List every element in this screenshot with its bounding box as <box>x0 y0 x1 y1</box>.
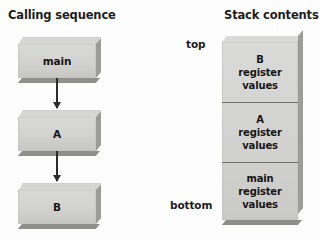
stack-frame-main-line1: main <box>246 172 273 185</box>
call-box-b-label: B <box>18 190 96 224</box>
stack-frame-b: B register values <box>222 42 298 102</box>
call-box-a-bottom-face <box>18 151 100 156</box>
stack-column: B register values A register values main… <box>222 42 298 220</box>
figure-canvas: Calling sequence Stack contents main A B… <box>0 0 319 240</box>
stack-frame-main: main register values <box>222 162 298 220</box>
arrow-head-down-icon <box>53 102 61 109</box>
stack-bottom-face <box>222 220 302 225</box>
call-box-main-label: main <box>18 44 96 78</box>
stack-frame-a: A register values <box>222 102 298 162</box>
stack-frame-b-line1: B <box>256 53 263 66</box>
stack-frame-a-line2: register <box>238 126 282 139</box>
call-box-a-label: A <box>18 117 96 151</box>
stack-frame-main-line3: values <box>242 198 278 211</box>
arrow-a-to-b <box>56 151 58 181</box>
stack-frame-b-line3: values <box>242 79 278 92</box>
call-box-b: B <box>18 183 96 217</box>
arrow-main-to-a <box>56 78 58 108</box>
call-box-main-bottom-face <box>18 78 100 83</box>
call-box-main: main <box>18 37 96 71</box>
stack-frame-b-line2: register <box>238 66 282 79</box>
stack-top-label: top <box>186 38 205 50</box>
stack-contents-heading: Stack contents <box>224 8 319 22</box>
stack-frame-a-line1: A <box>256 113 264 126</box>
stack-bottom-label: bottom <box>170 199 212 211</box>
stack-frame-a-line3: values <box>242 139 278 152</box>
arrow-head-down-icon <box>53 175 61 182</box>
call-box-b-right-face <box>96 184 101 224</box>
call-box-a-right-face <box>96 111 101 151</box>
calling-sequence-heading: Calling sequence <box>8 8 116 22</box>
call-box-b-bottom-face <box>18 224 100 229</box>
stack-frame-main-line2: register <box>238 185 282 198</box>
call-box-main-right-face <box>96 38 101 78</box>
stack-right-face <box>298 30 303 214</box>
call-box-a: A <box>18 110 96 144</box>
